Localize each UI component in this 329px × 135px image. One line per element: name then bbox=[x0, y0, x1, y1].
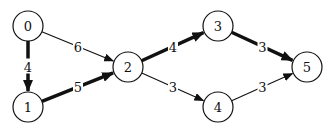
graph-diagram: 4654333 012345 bbox=[0, 0, 329, 135]
edge-weight-2-4: 3 bbox=[169, 80, 177, 95]
graph-svg: 4654333 012345 bbox=[0, 0, 329, 135]
nodes-layer: 012345 bbox=[13, 11, 322, 122]
edge-labels-layer: 4654333 bbox=[23, 39, 268, 96]
node-label: 1 bbox=[24, 100, 32, 115]
node-label: 3 bbox=[214, 19, 222, 34]
edge-weight-0-1: 4 bbox=[24, 60, 32, 75]
node-label: 2 bbox=[124, 60, 132, 75]
edge-weight-0-2: 6 bbox=[74, 40, 82, 55]
node-1: 1 bbox=[13, 92, 43, 122]
node-2: 2 bbox=[113, 52, 143, 82]
edges-layer bbox=[28, 32, 292, 102]
node-4: 4 bbox=[203, 92, 233, 122]
node-label: 0 bbox=[24, 19, 32, 34]
edge-weight-2-3: 4 bbox=[169, 40, 177, 55]
edge-weight-4-5: 3 bbox=[258, 80, 266, 95]
node-label: 5 bbox=[303, 60, 311, 75]
edge-weight-3-5: 3 bbox=[258, 40, 266, 55]
node-3: 3 bbox=[203, 11, 233, 41]
node-5: 5 bbox=[292, 52, 322, 82]
node-label: 4 bbox=[214, 100, 222, 115]
node-0: 0 bbox=[13, 11, 43, 41]
edge-weight-1-2: 5 bbox=[74, 80, 82, 95]
